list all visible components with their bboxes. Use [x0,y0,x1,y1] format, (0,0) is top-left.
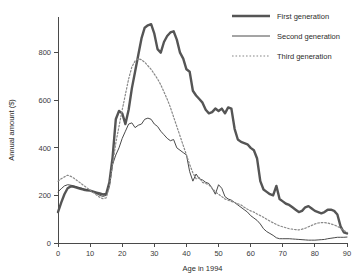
x-tick-label: 70 [279,249,287,258]
y-axis-title: Annual amount ($) [7,99,16,161]
x-tick-label: 50 [214,249,222,258]
series-line-2 [58,118,347,240]
y-tick-label: 200 [38,191,51,200]
legend-label-1: First generation [277,12,329,21]
y-tick-label: 0 [47,239,51,248]
x-tick-label: 80 [311,249,319,258]
x-tick-label: 40 [182,249,190,258]
x-tick-label: 30 [150,249,158,258]
x-tick-label: 10 [86,249,94,258]
chart-figure: 02004006008000102030405060708090Age in 1… [0,0,364,280]
x-tick-label: 0 [56,249,60,258]
y-tick-label: 400 [38,144,51,153]
x-tick-label: 60 [246,249,254,258]
y-tick-label: 800 [38,48,51,57]
y-tick-label: 600 [38,96,51,105]
x-tick-label: 20 [118,249,126,258]
x-tick-label: 90 [343,249,351,258]
x-axis-title: Age in 1994 [182,264,222,273]
line-chart: 02004006008000102030405060708090Age in 1… [0,0,364,280]
legend-label-2: Second generation [277,32,340,41]
series-line-3 [58,59,347,233]
legend-label-3: Third generation [277,52,332,61]
